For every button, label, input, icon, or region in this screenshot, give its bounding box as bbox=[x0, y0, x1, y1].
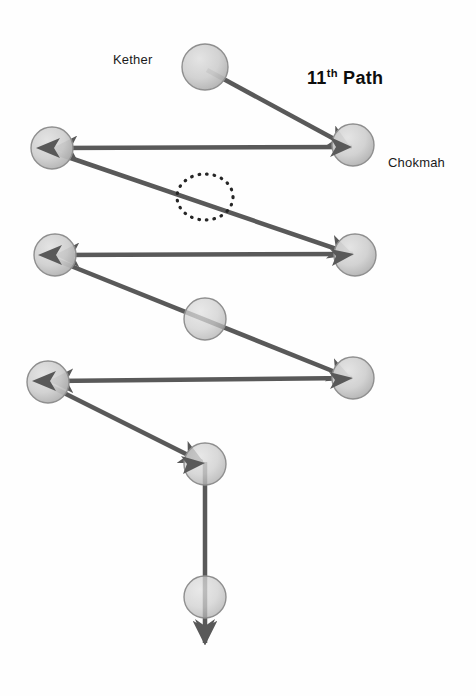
nodes-layer bbox=[27, 44, 376, 618]
node-label-chokmah: Chokmah bbox=[388, 155, 445, 170]
edges-layer bbox=[50, 70, 353, 643]
node-malkuth[interactable] bbox=[184, 576, 226, 618]
path-word: Path bbox=[343, 68, 383, 88]
edge-hod-yesod bbox=[50, 386, 202, 462]
edge-netzach-hod bbox=[51, 378, 352, 381]
path-number: 11 bbox=[307, 68, 327, 88]
path-annotation-label: 11th Path bbox=[307, 68, 383, 89]
diagram-canvas: Kether Chokmah 11th Path bbox=[0, 0, 476, 696]
edge-binah-chesed bbox=[53, 152, 351, 254]
node-label-kether: Kether bbox=[113, 52, 153, 67]
node-kether[interactable] bbox=[182, 44, 228, 90]
path-ordinal-suffix: th bbox=[327, 67, 338, 79]
node-tiphareth[interactable] bbox=[184, 298, 226, 340]
arrowheads-layer bbox=[32, 137, 354, 645]
diagram-svg bbox=[0, 0, 476, 696]
edge-chokmah-binah bbox=[55, 147, 352, 148]
edge-chesed-geburah bbox=[57, 254, 353, 255]
